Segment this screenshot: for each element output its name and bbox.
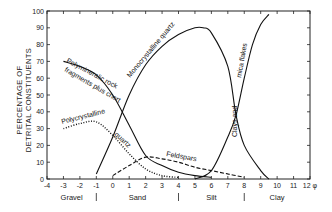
y-axis-title-line2: DETRITAL CONSTITUENTS: [24, 48, 33, 152]
x-tick-label: 1: [127, 182, 131, 189]
series-label: Clays and: [231, 106, 239, 137]
x-tick-label: 2: [144, 182, 148, 189]
series-label: mica flakes: [235, 42, 248, 78]
y-tick-label: 30: [36, 125, 44, 132]
x-tick-label: -2: [77, 182, 83, 189]
size-class-label: Clay: [270, 193, 285, 202]
size-class-labels: GravelSandSiltClay: [61, 193, 285, 202]
x-tick-label: 5: [193, 182, 197, 189]
size-class-label: Silt: [206, 193, 217, 202]
x-tick-label: 12 φ: [303, 182, 318, 190]
x-tick-label: 0: [111, 182, 115, 189]
x-tick-label: 7: [226, 182, 230, 189]
series-label: Monocrystalline quartz: [125, 20, 176, 79]
x-tick-label: 4: [177, 182, 181, 189]
size-class-label: Gravel: [61, 193, 83, 202]
series-line: [63, 121, 178, 177]
y-tick-label: 80: [36, 41, 44, 48]
y-tick-label: 60: [36, 75, 44, 82]
series-line: [113, 157, 245, 177]
x-tick-label: -1: [93, 182, 99, 189]
x-tick-label: 11: [290, 182, 297, 189]
y-tick-label: 40: [36, 108, 44, 115]
x-tick-label: -4: [44, 182, 50, 189]
x-tick-label: 9: [259, 182, 263, 189]
x-tick-label: 6: [209, 182, 213, 189]
y-tick-label: 20: [36, 142, 44, 149]
series-labels: Polymineralic rockfragments plus chertMo…: [61, 20, 249, 163]
x-tick-label: 10: [273, 182, 281, 189]
chart-canvas: 0102030405060708090100 -4-3-2-1012345678…: [0, 0, 332, 212]
series-line: [195, 14, 269, 179]
size-class-label: Sand: [129, 193, 147, 202]
y-tick-label: 100: [32, 8, 44, 15]
y-axis-title: PERCENTAGE OF DETRITAL CONSTITUENTS: [15, 48, 33, 152]
series-label: Feldspars: [166, 150, 198, 163]
x-tick-label: 8: [242, 182, 246, 189]
x-tick-label: -3: [60, 182, 66, 189]
y-tick-label: 90: [36, 24, 44, 31]
y-tick-label: 50: [36, 92, 44, 99]
x-tick-label: 3: [160, 182, 164, 189]
y-axis-title-line1: PERCENTAGE OF: [15, 66, 24, 135]
y-tick-label: 70: [36, 58, 44, 65]
y-tick-label: 10: [36, 159, 44, 166]
